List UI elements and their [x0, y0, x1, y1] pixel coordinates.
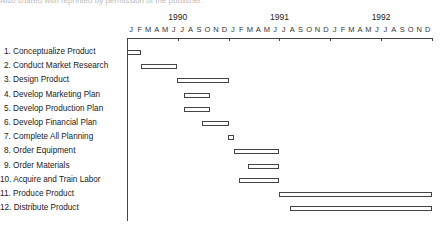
- month-label: S: [398, 25, 406, 34]
- month-label: M: [364, 25, 372, 34]
- task-bar: [248, 164, 279, 169]
- month-label: J: [381, 25, 389, 34]
- axis-tick: [330, 38, 331, 41]
- month-label: N: [415, 25, 423, 34]
- task-bar: [141, 64, 177, 69]
- task-bar: [177, 78, 229, 83]
- task-label: 8. Order Equipment: [4, 146, 75, 155]
- month-label: M: [263, 25, 271, 34]
- month-label: O: [203, 25, 211, 34]
- year-label: 1990: [168, 12, 187, 22]
- month-label: A: [254, 25, 262, 34]
- month-label: F: [135, 25, 143, 34]
- task-bar: [228, 135, 234, 140]
- task-axis-line: [127, 38, 128, 221]
- task-label: 10. Acquire and Train Labor: [0, 175, 101, 184]
- task-bar: [234, 149, 280, 154]
- month-label: A: [152, 25, 160, 34]
- month-label: O: [407, 25, 415, 34]
- month-label: F: [237, 25, 245, 34]
- task-label: 3. Design Product: [4, 75, 69, 84]
- task-bar: [239, 178, 280, 183]
- task-label: 9. Order Materials: [4, 161, 70, 170]
- month-label: O: [305, 25, 313, 34]
- month-label: A: [288, 25, 296, 34]
- month-label: D: [220, 25, 228, 34]
- task-label: 11. Produce Product: [0, 189, 74, 198]
- axis-tick: [381, 38, 382, 41]
- month-label: S: [195, 25, 203, 34]
- month-label: N: [313, 25, 321, 34]
- month-label: D: [322, 25, 330, 34]
- axis-tick: [279, 38, 280, 41]
- month-label: M: [347, 25, 355, 34]
- task-label: 2. Conduct Market Research: [4, 61, 108, 70]
- task-bar: [184, 93, 210, 98]
- month-label: M: [144, 25, 152, 34]
- month-label: D: [423, 25, 431, 34]
- task-bar: [127, 50, 141, 55]
- month-label: J: [229, 25, 237, 34]
- task-bar: [184, 107, 210, 112]
- year-label: 1991: [270, 12, 289, 22]
- clipped-caption: Also shared with reprinted by permission…: [0, 0, 203, 5]
- task-bar: [279, 192, 431, 197]
- month-label: F: [339, 25, 347, 34]
- month-label: J: [127, 25, 135, 34]
- month-label: J: [169, 25, 177, 34]
- month-label: J: [330, 25, 338, 34]
- month-label: M: [246, 25, 254, 34]
- task-label: 6. Develop Financial Plan: [4, 118, 97, 127]
- month-label: J: [178, 25, 186, 34]
- task-label: 1. Conceptualize Product: [4, 47, 95, 56]
- month-label: M: [161, 25, 169, 34]
- month-label: A: [356, 25, 364, 34]
- task-label: 12. Distribute Product: [0, 203, 79, 212]
- task-label: 5. Develop Production Plan: [4, 104, 103, 113]
- month-label: A: [390, 25, 398, 34]
- task-label: 7. Complete All Planning: [4, 132, 93, 141]
- task-label: 4. Develop Marketing Plan: [4, 90, 100, 99]
- month-label: J: [271, 25, 279, 34]
- axis-tick: [432, 38, 433, 41]
- month-label: S: [296, 25, 304, 34]
- month-label: A: [186, 25, 194, 34]
- task-bar: [202, 121, 228, 126]
- month-label: N: [212, 25, 220, 34]
- axis-tick: [178, 38, 179, 41]
- month-label: J: [279, 25, 287, 34]
- task-bar: [290, 206, 432, 211]
- month-label: J: [373, 25, 381, 34]
- axis-tick: [229, 38, 230, 41]
- year-label: 1992: [372, 12, 391, 22]
